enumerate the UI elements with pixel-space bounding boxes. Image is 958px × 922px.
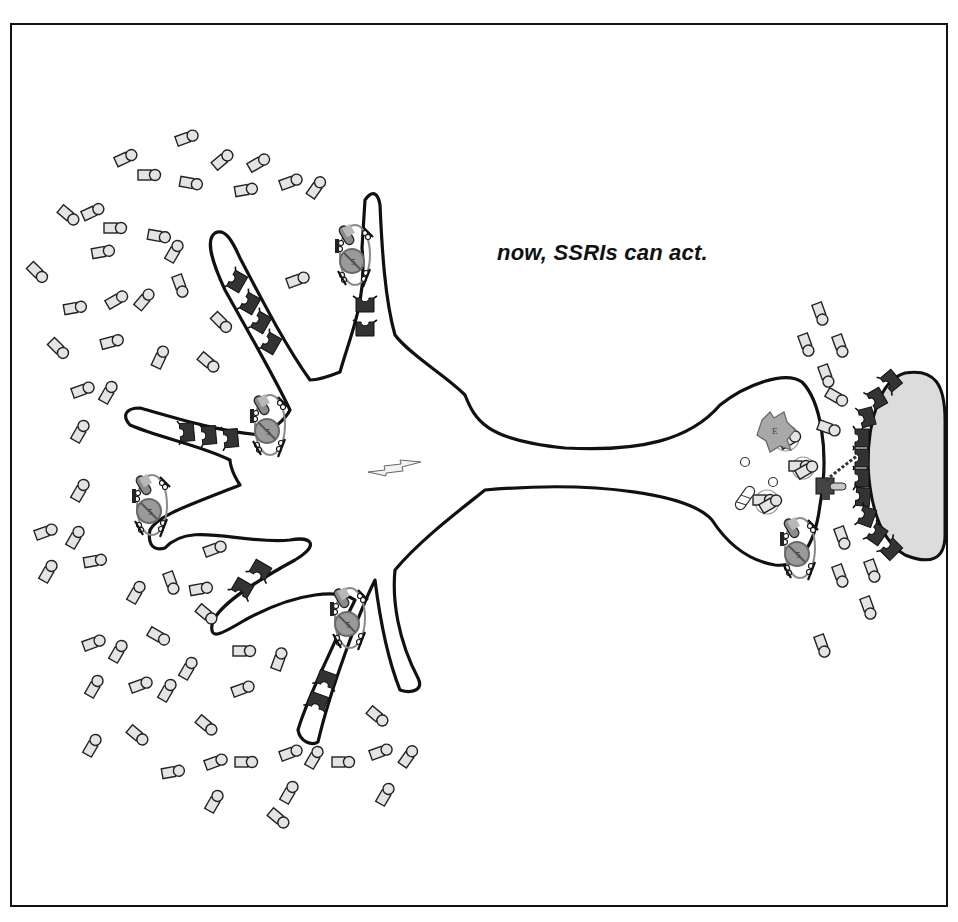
serotonin-molecule-icon	[151, 344, 170, 369]
serotonin-molecule-icon	[235, 757, 258, 768]
enzyme-letter: E	[772, 426, 778, 436]
serotonin-molecule-icon	[831, 334, 849, 359]
serotonin-molecule-icon	[178, 655, 199, 680]
serotonin-molecule-icon	[47, 337, 71, 361]
serotonin-molecule-icon	[817, 364, 835, 389]
serotonin-molecule-icon	[71, 381, 96, 399]
serotonin-molecule-icon	[108, 638, 129, 663]
serotonin-molecule-icon	[34, 523, 59, 541]
serotonin-molecule-icon	[195, 714, 219, 737]
serotonin-molecule-icon	[398, 744, 420, 769]
serotonin-molecule-icon	[833, 526, 851, 551]
serotonin-molecule-icon	[797, 333, 815, 358]
serotonin-molecule-icon	[147, 626, 172, 647]
serotonin-molecule-icon	[162, 571, 180, 596]
serotonin-molecule-icon	[161, 764, 185, 779]
serotonin-molecule-icon	[863, 559, 881, 584]
serotonin-molecule-icon	[84, 673, 105, 698]
serotonin-molecule-icon	[38, 558, 59, 583]
serotonin-molecule-icon	[126, 579, 147, 604]
serotonin-molecule-icon	[175, 129, 200, 147]
serotonin-molecule-icon	[306, 175, 328, 200]
serotonin-molecule-icon	[70, 477, 91, 502]
serotonin-molecule-icon	[105, 289, 130, 310]
serotonin-molecule-icon	[813, 634, 831, 659]
serotonin-molecule-icon	[369, 743, 394, 761]
serotonin-molecule-icon	[859, 596, 877, 621]
serotonin-molecule-icon	[811, 302, 829, 327]
serotonin-molecule-icon	[195, 603, 219, 626]
serotonin-molecule-icon	[375, 781, 396, 806]
serotonin-molecule-icon	[279, 744, 304, 762]
serotonin-molecule-icon	[57, 204, 81, 227]
serotonin-molecule-icon	[81, 202, 106, 221]
serotonin-molecule-icon	[91, 244, 115, 259]
serotonin-molecule-icon	[147, 229, 171, 244]
diagram-canvas: 5 E	[0, 0, 958, 922]
serotonin-molecule-icon	[63, 300, 87, 315]
serotonin-molecule-icon	[98, 379, 119, 404]
serotonin-molecule-icon	[366, 705, 390, 728]
serotonin-molecule-icon	[197, 351, 221, 374]
serotonin-molecule-icon	[279, 779, 300, 804]
figure-caption: now, SSRIs can act.	[497, 240, 708, 266]
free-serotonin-dot	[741, 458, 750, 467]
serotonin-molecule-icon	[83, 553, 107, 568]
serotonin-molecule-icon	[138, 170, 161, 181]
serotonin-molecule-icon	[82, 732, 103, 757]
serotonin-molecule-icon	[279, 173, 304, 191]
free-serotonin-dot	[769, 478, 778, 487]
serotonin-molecule-icon	[100, 333, 125, 349]
serotonin-molecule-icon	[825, 387, 850, 408]
serotonin-molecule-icon	[204, 753, 229, 771]
serotonin-molecule-icon	[233, 646, 256, 657]
serotonin-molecule-icon	[231, 680, 256, 698]
postsynaptic-receptor-icon	[853, 484, 871, 509]
serotonin-molecule-icon	[267, 807, 291, 830]
serotonin-molecule-icon	[247, 152, 272, 173]
serotonin-molecule-icon	[26, 261, 50, 285]
serotonin-molecule-icon	[286, 271, 311, 289]
serotonin-molecule-icon	[157, 677, 178, 702]
serotonin-molecule-icon	[270, 646, 288, 671]
serotonin-molecule-icon	[204, 788, 225, 813]
serotonin-molecule-icon	[189, 581, 213, 596]
serotonin-molecule-icon	[133, 287, 156, 311]
serotonin-molecule-icon	[126, 724, 150, 747]
presynaptic-neuron	[126, 194, 824, 744]
serotonin-molecule-icon	[203, 540, 228, 558]
serotonin-molecule-icon	[210, 311, 234, 335]
serotonin-molecule-icon	[831, 564, 849, 589]
postsynaptic-receptor-icon	[853, 426, 869, 450]
serotonin-molecule-icon	[114, 148, 139, 167]
serotonin-molecule-icon	[129, 676, 154, 694]
serotonin-molecule-icon	[70, 418, 91, 443]
serotonin-molecule-icon	[332, 757, 355, 768]
serotonin-molecule-icon	[171, 274, 189, 299]
serotonin-molecule-icon	[304, 744, 325, 769]
serotonin-molecule-icon	[82, 634, 107, 652]
serotonin-molecule-icon	[234, 182, 258, 197]
serotonin-molecule-icon	[65, 524, 86, 549]
serotonin-molecule-icon	[211, 148, 235, 171]
serotonin-molecule-icon	[179, 176, 203, 191]
serotonin-molecule-icon	[104, 223, 127, 234]
